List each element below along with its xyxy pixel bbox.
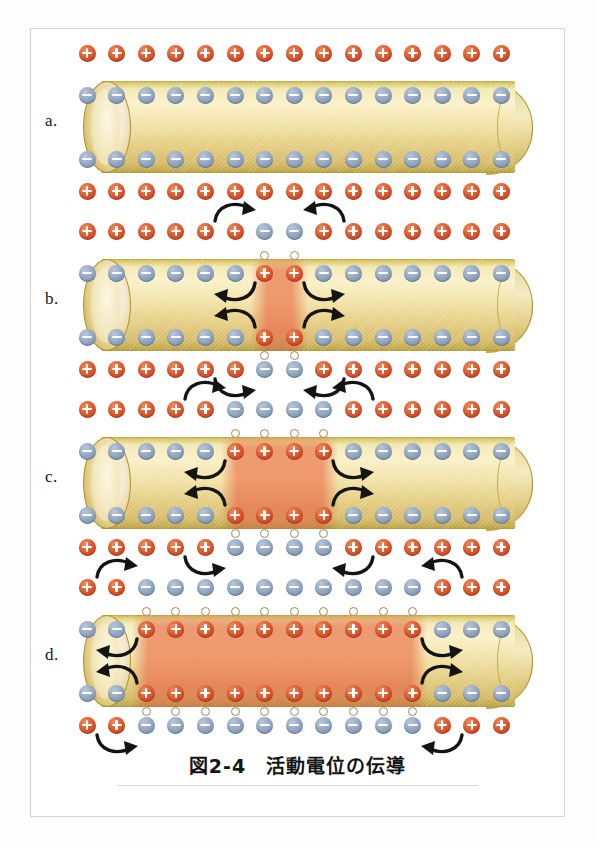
positive-ion-outside-bottom — [463, 183, 480, 200]
positive-ion-inside-bottom — [227, 507, 244, 524]
charge-glyph-horizontal — [348, 336, 358, 339]
charge-glyph-horizontal — [319, 724, 329, 727]
charge-glyph-vertical — [204, 688, 207, 698]
negative-ion-outside-bottom — [256, 717, 273, 734]
positive-ion-outside-bottom — [108, 539, 125, 556]
negative-ion-inside-bottom — [434, 507, 451, 524]
charge-glyph-horizontal — [467, 628, 477, 631]
charge-glyph-horizontal — [289, 724, 299, 727]
negative-ion-inside-bottom — [463, 329, 480, 346]
charge-glyph-horizontal — [496, 628, 506, 631]
charge-glyph-horizontal — [408, 724, 418, 727]
negative-ion-inside-top — [434, 443, 451, 460]
negative-ion-inside-bottom — [108, 329, 125, 346]
ion-flow-arrow-right — [300, 275, 356, 305]
charge-glyph-vertical — [86, 226, 89, 236]
negative-ion-outside-bottom — [256, 539, 273, 556]
positive-ion-outside-top — [315, 45, 332, 62]
charge-glyph-vertical — [115, 404, 118, 414]
positive-ion-outside-bottom — [315, 183, 332, 200]
negative-ion-inside-bottom — [404, 151, 421, 168]
charge-glyph-vertical — [471, 404, 474, 414]
charge-glyph-vertical — [263, 268, 266, 278]
negative-ion-inside-top — [404, 265, 421, 282]
charge-glyph-vertical — [323, 186, 326, 196]
charge-glyph-vertical — [86, 48, 89, 58]
charge-glyph-vertical — [175, 226, 178, 236]
charge-glyph-horizontal — [82, 272, 92, 275]
charge-glyph-horizontal — [230, 158, 240, 161]
charge-glyph-horizontal — [348, 586, 358, 589]
negative-ion-inside-top — [79, 265, 96, 282]
charge-glyph-vertical — [500, 542, 503, 552]
charge-glyph-horizontal — [82, 336, 92, 339]
negative-ion-inside-bottom — [463, 151, 480, 168]
charge-glyph-horizontal — [437, 272, 447, 275]
charge-glyph-vertical — [204, 48, 207, 58]
panel-c: c. — [31, 391, 566, 569]
negative-ion-inside-bottom — [256, 151, 273, 168]
negative-ion-inside-top — [375, 265, 392, 282]
charge-glyph-horizontal — [230, 546, 240, 549]
ion-channel-icon — [171, 607, 180, 616]
ion-channel-icon — [379, 607, 388, 616]
charge-glyph-vertical — [234, 446, 237, 456]
ion-channel-icon — [290, 607, 299, 616]
charge-glyph-horizontal — [496, 450, 506, 453]
positive-ion-inside-bottom — [227, 685, 244, 702]
negative-ion-outside-top — [256, 579, 273, 596]
charge-glyph-horizontal — [496, 94, 506, 97]
negative-ion-inside-bottom — [493, 507, 510, 524]
charge-glyph-horizontal — [319, 272, 329, 275]
negative-ion-inside-top — [138, 265, 155, 282]
charge-glyph-vertical — [382, 624, 385, 634]
charge-glyph-horizontal — [200, 94, 210, 97]
charge-glyph-horizontal — [141, 272, 151, 275]
positive-ion-outside-bottom — [493, 717, 510, 734]
positive-ion-outside-top — [79, 401, 96, 418]
positive-ion-inside-bottom — [286, 685, 303, 702]
negative-ion-inside-top — [493, 621, 510, 638]
negative-ion-inside-top — [493, 443, 510, 460]
charge-glyph-vertical — [352, 624, 355, 634]
ion-flow-arrow-left — [410, 727, 466, 757]
negative-ion-outside-top — [197, 579, 214, 596]
negative-ion-inside-top — [493, 265, 510, 282]
charge-glyph-vertical — [263, 510, 266, 520]
positive-ion-inside-bottom — [286, 507, 303, 524]
charge-glyph-vertical — [263, 688, 266, 698]
charge-glyph-vertical — [352, 48, 355, 58]
ion-channel-icon — [260, 707, 269, 716]
charge-glyph-horizontal — [230, 94, 240, 97]
positive-ion-outside-bottom — [167, 361, 184, 378]
charge-glyph-horizontal — [408, 94, 418, 97]
charge-glyph-vertical — [175, 404, 178, 414]
positive-ion-outside-top — [463, 45, 480, 62]
charge-glyph-vertical — [500, 364, 503, 374]
charge-glyph-horizontal — [200, 272, 210, 275]
charge-glyph-vertical — [323, 510, 326, 520]
charge-glyph-vertical — [323, 48, 326, 58]
positive-ion-outside-top — [404, 401, 421, 418]
charge-glyph-vertical — [411, 186, 414, 196]
charge-glyph-vertical — [500, 48, 503, 58]
charge-glyph-horizontal — [289, 368, 299, 371]
ion-flow-arrow-left — [321, 549, 377, 579]
charge-glyph-vertical — [382, 226, 385, 236]
positive-ion-outside-top — [434, 401, 451, 418]
negative-ion-inside-top — [375, 87, 392, 104]
negative-ion-outside-bottom — [227, 717, 244, 734]
positive-ion-inside-top — [256, 621, 273, 638]
positive-ion-outside-bottom — [404, 361, 421, 378]
negative-ion-inside-top — [138, 443, 155, 460]
charge-glyph-vertical — [115, 186, 118, 196]
ion-channel-icon — [231, 607, 240, 616]
charge-glyph-vertical — [234, 624, 237, 634]
ion-channel-icon — [319, 429, 328, 438]
negative-ion-inside-top — [108, 265, 125, 282]
positive-ion-outside-top — [463, 223, 480, 240]
charge-glyph-vertical — [471, 186, 474, 196]
panel-label-a: a. — [45, 111, 58, 131]
negative-ion-inside-bottom — [434, 329, 451, 346]
ion-flow-arrow-left — [292, 199, 348, 229]
